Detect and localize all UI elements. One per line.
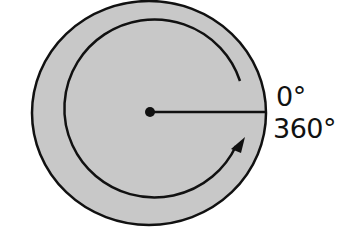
center-point (145, 107, 155, 117)
rotation-diagram: 0° 360° (0, 0, 342, 241)
label-360-degrees: 360° (273, 115, 336, 142)
label-zero-degrees: 0° (276, 83, 306, 110)
